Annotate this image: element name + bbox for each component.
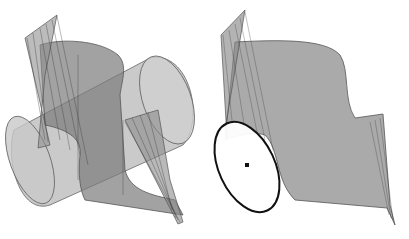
figure-right-panel	[205, 0, 409, 239]
surface-ellipse-illustration	[205, 0, 409, 239]
surface-cylinder-illustration	[0, 0, 205, 239]
figure-left-panel	[0, 0, 205, 239]
center-point	[245, 163, 249, 167]
